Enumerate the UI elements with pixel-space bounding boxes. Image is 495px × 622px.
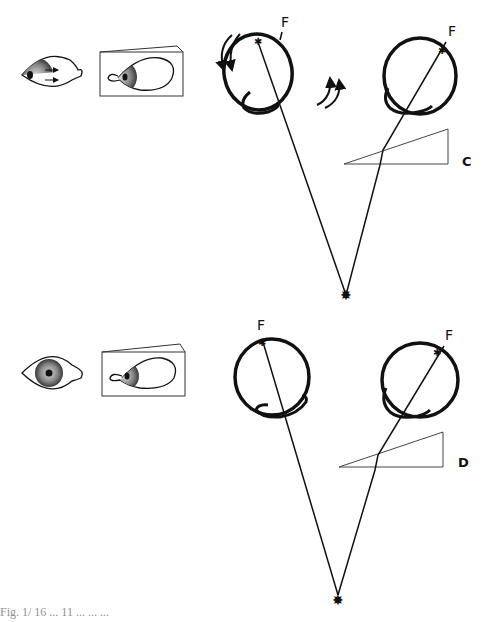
visual-axis-d-left bbox=[263, 342, 338, 595]
fixation-label-c-right: F bbox=[448, 23, 456, 39]
panel-c: F ✱ F ✱ ✸ bbox=[19, 14, 456, 303]
visual-axis-c-right bbox=[346, 42, 446, 295]
front-eye-icon-c bbox=[19, 56, 82, 92]
diagram-canvas: F ✱ F ✱ ✸ bbox=[0, 0, 495, 622]
fixation-target-icon-c: ✸ bbox=[340, 287, 352, 303]
fixation-label-d-right: F bbox=[445, 327, 453, 343]
visual-axis-c-left bbox=[258, 42, 346, 295]
fixation-label-d-left: F bbox=[257, 317, 265, 333]
figure-caption: Fig. 1/ 16 ... 11 ... ... ... bbox=[0, 605, 109, 620]
panel-label-d: D bbox=[458, 455, 469, 470]
left-eyeball-d: F ✱ bbox=[235, 317, 309, 417]
fixation-label-c-left: F bbox=[281, 14, 289, 30]
fovea-star-icon: ✱ bbox=[254, 36, 262, 47]
right-eyeball-d: F ✱ bbox=[382, 327, 458, 417]
prism-c bbox=[344, 129, 448, 164]
fixation-target-icon-d: ✸ bbox=[332, 592, 344, 608]
prism-box-eye-c bbox=[100, 46, 183, 96]
front-eye-icon-d bbox=[22, 357, 82, 389]
right-eyeball-c: F ✱ bbox=[384, 23, 456, 114]
fovea-star-icon: ✱ bbox=[258, 337, 266, 348]
prism-box-eye-d bbox=[102, 344, 185, 396]
prism-d bbox=[339, 432, 443, 467]
panel-label-c: C bbox=[462, 154, 472, 169]
visual-axis-d-right bbox=[338, 346, 444, 595]
panel-d: F ✱ F ✱ ✸ bbox=[22, 317, 458, 608]
